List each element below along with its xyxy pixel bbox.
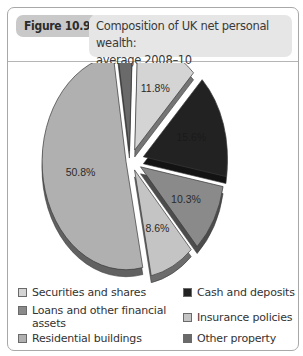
slice-data-label: 10.3% [171, 193, 201, 205]
legend-item-other-property: Other property [183, 332, 276, 345]
legend-label: Loans and other financial assets [32, 304, 166, 330]
legend-swatch [18, 288, 27, 297]
chart-legend: Securities and shares Cash and deposits … [8, 284, 298, 350]
pie-chart: 11.8%15.6%10.3%8.6%50.8%3.0% [8, 63, 298, 283]
legend-label-line-1: Loans and other financial [32, 304, 166, 317]
slice-data-label: 8.6% [145, 222, 169, 234]
figure-card: Figure 10.9 Composition of UK net person… [7, 7, 299, 351]
legend-label: Insurance policies [197, 311, 292, 324]
legend-item-loans: Loans and other financial assets [18, 304, 166, 330]
figure-title-line-1: Composition of UK net personal wealth: [96, 18, 285, 52]
figure-header: Figure 10.9 Composition of UK net person… [8, 8, 298, 62]
legend-label: Residential buildings [32, 332, 142, 345]
slice-data-label: 15.6% [177, 131, 207, 143]
legend-item-cash: Cash and deposits [183, 286, 295, 299]
slice-data-label: 11.8% [141, 82, 170, 94]
figure-number: Figure 10.9 [16, 15, 98, 37]
legend-item-securities: Securities and shares [18, 286, 146, 299]
slice-data-label: 3.0% [113, 63, 137, 65]
legend-label: Securities and shares [32, 286, 146, 299]
legend-label: Other property [197, 332, 276, 345]
legend-swatch [18, 334, 27, 343]
pie-chart-svg: 11.8%15.6%10.3%8.6%50.8%3.0% [8, 63, 298, 283]
legend-swatch [183, 313, 192, 322]
legend-swatch [183, 334, 192, 343]
legend-swatch [18, 306, 27, 315]
legend-label: Cash and deposits [197, 286, 295, 299]
legend-label-line-2: assets [32, 317, 66, 330]
legend-item-insurance: Insurance policies [183, 311, 292, 324]
legend-swatch [183, 288, 192, 297]
figure-title: Composition of UK net personal wealth: a… [89, 15, 292, 57]
legend-item-residential: Residential buildings [18, 332, 142, 345]
slice-data-label: 50.8% [66, 166, 96, 178]
